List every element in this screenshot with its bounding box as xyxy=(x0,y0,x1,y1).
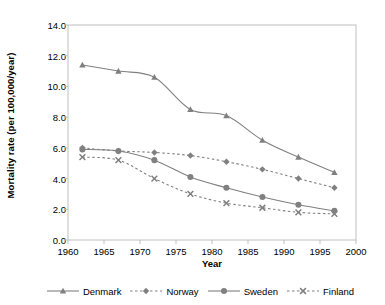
legend-item-denmark[interactable]: Denmark xyxy=(46,285,122,297)
legend-swatch-x-icon xyxy=(286,285,320,297)
x-axis-tick-label: 1960 xyxy=(57,246,78,257)
x-axis-tick-label: 1965 xyxy=(93,246,114,257)
mortality-rate-line-chart: Mortality rate (per 100,000/year) 0.02.0… xyxy=(0,0,385,305)
legend-swatch-circle-icon xyxy=(207,285,241,297)
x-axis-tick-label: 1975 xyxy=(165,246,186,257)
x-axis-tick-label: 1995 xyxy=(309,246,330,257)
data-point-marker xyxy=(221,288,227,294)
legend-swatch-diamond-icon xyxy=(129,285,163,297)
legend-label: Finland xyxy=(323,286,354,297)
data-point-marker xyxy=(143,288,149,294)
x-axis-tick-label: 1980 xyxy=(201,246,222,257)
x-axis-tick-label: 1970 xyxy=(129,246,150,257)
legend-swatch-triangle-icon xyxy=(46,285,80,297)
legend-item-sweden[interactable]: Sweden xyxy=(207,285,278,297)
legend-item-norway[interactable]: Norway xyxy=(129,285,198,297)
legend-label: Denmark xyxy=(83,286,122,297)
legend-item-finland[interactable]: Finland xyxy=(286,285,354,297)
x-axis-tick-label: 2000 xyxy=(345,246,366,257)
x-axis-tick-label: 1990 xyxy=(273,246,294,257)
x-axis-tick-label: 1985 xyxy=(237,246,258,257)
legend-label: Sweden xyxy=(244,286,278,297)
legend-label: Norway xyxy=(166,286,198,297)
x-axis-title: Year xyxy=(68,258,356,269)
chart-legend: DenmarkNorwaySwedenFinland xyxy=(50,281,350,301)
